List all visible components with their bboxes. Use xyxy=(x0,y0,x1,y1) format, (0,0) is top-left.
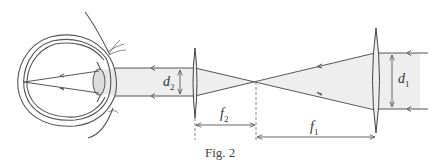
label-f1: f1 xyxy=(310,120,318,137)
eyepiece-lens xyxy=(193,48,197,118)
objective-lens xyxy=(373,28,380,133)
rays-in-eye xyxy=(24,71,99,93)
light-beam xyxy=(100,53,420,109)
diagram-svg xyxy=(0,0,440,167)
figure-caption: Fig. 2 xyxy=(205,145,235,161)
label-f2: f2 xyxy=(220,107,228,124)
telescope-eye-diagram: d2 d1 f2 f1 Fig. 2 xyxy=(0,0,440,167)
label-d2: d2 xyxy=(163,75,175,92)
label-d1: d1 xyxy=(398,72,410,89)
